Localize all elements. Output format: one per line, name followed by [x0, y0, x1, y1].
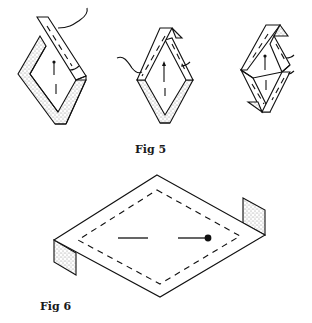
fig5-caption: Fig 5 [135, 143, 166, 156]
folding-diagram [0, 0, 312, 323]
dot-marker-icon [205, 235, 212, 242]
fig6-caption: Fig 6 [40, 300, 71, 313]
fig6-panel [54, 175, 265, 297]
leader-line-icon [58, 8, 87, 28]
fig5-step1 [18, 8, 87, 124]
fig5-step2 [117, 28, 193, 123]
fig5-step3 [241, 25, 294, 112]
